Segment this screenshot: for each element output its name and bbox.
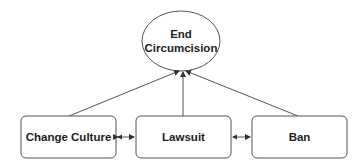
node-label-ban: Ban	[252, 116, 347, 158]
goal-label-line2: Circumcision	[145, 41, 218, 55]
edge-change-culture-to-goal	[69, 71, 179, 116]
goal-label: End Circumcision	[142, 20, 220, 62]
goal-label-line1: End	[170, 27, 192, 41]
node-label-lawsuit: Lawsuit	[136, 116, 231, 158]
arrowhead-left-2	[232, 135, 237, 140]
arrowhead-left-1	[117, 135, 122, 140]
edge-ban-to-goal	[186, 71, 298, 116]
node-label-change-culture: Change Culture	[21, 116, 116, 158]
